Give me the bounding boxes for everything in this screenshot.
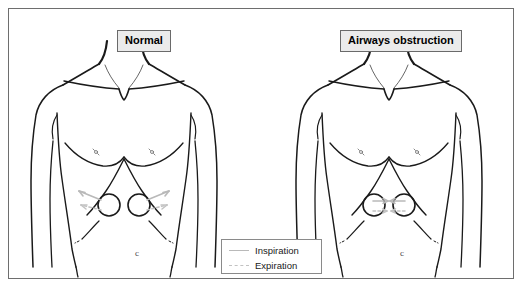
pectoral-fold-right bbox=[389, 143, 448, 166]
costal-margin-right-lower bbox=[149, 221, 166, 239]
flank-right bbox=[172, 113, 191, 267]
panel-title-normal: Normal bbox=[117, 30, 171, 52]
landmark-circle-right bbox=[128, 194, 150, 216]
navel-mark-obstruction: c bbox=[400, 249, 404, 258]
arm-left-outer bbox=[31, 85, 63, 267]
costal-margin-right bbox=[124, 159, 161, 215]
nipple-mark-left bbox=[358, 149, 364, 155]
legend-line-dashed-icon bbox=[229, 265, 249, 266]
costal-margin-left bbox=[87, 159, 124, 215]
pectoral-fold-left bbox=[330, 143, 389, 166]
costal-margin-left-lower bbox=[347, 221, 364, 239]
costal-margin-left-tip bbox=[340, 241, 344, 243]
costal-margin-left bbox=[352, 159, 389, 215]
supraclavicular-fossa-left bbox=[105, 65, 119, 88]
landmark-circle-left bbox=[363, 194, 385, 216]
waist-right bbox=[435, 267, 437, 277]
landmark-circle-right bbox=[393, 194, 415, 216]
flank-right bbox=[437, 113, 456, 267]
arrow-inspiration-right-normal bbox=[147, 191, 169, 200]
chest-wall-motion-figure: c c Normal Airways obstruction Inspirati… bbox=[0, 0, 524, 289]
clavicle-right bbox=[394, 81, 449, 89]
arrow-inspiration-left-normal bbox=[79, 191, 101, 200]
costal-margin-right-lower bbox=[414, 221, 431, 239]
legend-label-inspiration: Inspiration bbox=[255, 246, 299, 256]
flank-left bbox=[57, 113, 76, 267]
nipple-mark-left bbox=[93, 149, 99, 155]
legend-item-inspiration: Inspiration bbox=[222, 243, 321, 258]
costal-margin-left-lower bbox=[82, 221, 99, 239]
costal-margin-right-tip bbox=[169, 241, 173, 243]
waist-left bbox=[76, 267, 78, 277]
panel-title-obstruction: Airways obstruction bbox=[340, 30, 462, 52]
supraclavicular-fossa-left bbox=[370, 65, 384, 88]
navel-mark-normal: c bbox=[135, 249, 139, 258]
arrow-inspiration-right-obstruction bbox=[390, 199, 405, 204]
legend: Inspiration Expiration bbox=[221, 239, 322, 274]
legend-item-expiration: Expiration bbox=[222, 258, 321, 273]
legend-line-solid-icon bbox=[229, 250, 249, 251]
costal-margin-left-tip bbox=[75, 241, 79, 243]
arm-right-inner bbox=[195, 141, 198, 267]
axilla-fold-left bbox=[317, 115, 322, 139]
sternal-notch bbox=[384, 89, 394, 100]
landmark-circle-left bbox=[98, 194, 120, 216]
sternal-notch bbox=[119, 89, 129, 100]
torso-obstruction bbox=[296, 41, 482, 277]
axilla-fold-left bbox=[52, 115, 57, 139]
supraclavicular-fossa-right bbox=[129, 65, 143, 88]
figure-frame: c c Normal Airways obstruction Inspirati… bbox=[8, 8, 514, 279]
supraclavicular-fossa-right bbox=[394, 65, 408, 88]
axilla-fold-right bbox=[191, 115, 196, 139]
pectoral-fold-left bbox=[65, 143, 124, 166]
torso-normal bbox=[31, 41, 217, 277]
waist-left bbox=[341, 267, 343, 277]
clavicle-right bbox=[129, 81, 184, 89]
clavicle-left bbox=[329, 81, 384, 89]
arm-right-inner bbox=[460, 141, 463, 267]
arrow-expiration-left-obstruction bbox=[373, 209, 387, 213]
nipple-mark-right bbox=[414, 149, 420, 155]
neck-left-edge bbox=[99, 41, 107, 64]
costal-margin-right bbox=[389, 159, 426, 215]
arrow-expiration-right-obstruction bbox=[391, 209, 405, 213]
pectoral-fold-right bbox=[124, 143, 183, 166]
arrow-inspiration-left-obstruction bbox=[373, 199, 388, 204]
clavicle-left bbox=[64, 81, 119, 89]
flank-left bbox=[322, 113, 341, 267]
legend-label-expiration: Expiration bbox=[255, 261, 297, 271]
arm-right-outer bbox=[185, 85, 217, 267]
arm-right-outer bbox=[450, 85, 482, 267]
arm-left-inner bbox=[50, 141, 53, 267]
axilla-fold-right bbox=[456, 115, 461, 139]
costal-margin-right-tip bbox=[434, 241, 438, 243]
nipple-mark-right bbox=[149, 149, 155, 155]
waist-right bbox=[170, 267, 172, 277]
